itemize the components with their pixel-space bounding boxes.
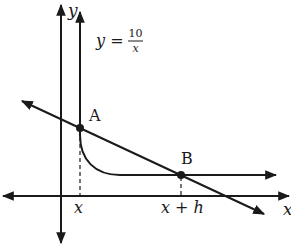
tick-label-x-plus-h: x + h <box>161 200 204 216</box>
diagram-canvas <box>0 0 291 249</box>
equation-lhs: y = <box>96 33 124 49</box>
hyperbola-curve <box>80 128 276 175</box>
point-b-label: B <box>181 151 193 167</box>
equation-numerator: 10 <box>128 28 143 39</box>
point-a <box>76 124 84 132</box>
tick-label-x: x <box>74 200 83 216</box>
secant-line <box>22 101 264 214</box>
point-b <box>177 171 185 179</box>
y-axis-label: y <box>68 2 78 19</box>
point-a-label: A <box>89 108 101 124</box>
x-axis-label: x <box>283 201 291 218</box>
equation-denominator: x <box>128 43 143 54</box>
